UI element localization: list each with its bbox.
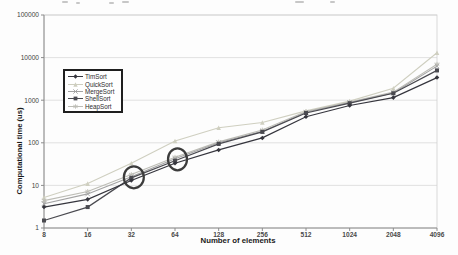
legend-item-shellsort: ShellSort — [68, 95, 119, 102]
legend-diamond — [73, 74, 77, 78]
legend: TimSortQuickSortMergeSortShellSortHeapSo… — [63, 69, 123, 113]
y-tick-label: 100 — [28, 139, 39, 146]
series-timsort-diamond — [85, 197, 90, 202]
x-tick-label: 64 — [171, 231, 179, 238]
series-shellsort-square — [42, 218, 46, 222]
x-tick-label: 16 — [84, 231, 92, 238]
legend-label: MergeSort — [85, 88, 114, 95]
series-timsort-diamond — [391, 95, 396, 100]
y-tick-label: 1 — [35, 224, 39, 231]
series-timsort-diamond — [435, 75, 440, 80]
legend-marker-square-icon — [68, 95, 83, 102]
legend-marker-x-icon — [68, 88, 83, 95]
chart-figure: 1101001000100001000008163264128256512102… — [0, 0, 458, 255]
x-tick-label: 2048 — [386, 231, 401, 238]
x-tick-label: 32 — [128, 231, 136, 238]
y-tick-label: 10000 — [21, 54, 40, 61]
series-timsort-diamond — [260, 136, 265, 141]
x-tick-label: 4096 — [430, 231, 445, 238]
legend-label: ShellSort — [85, 95, 111, 102]
series-timsort-diamond — [304, 114, 309, 119]
y-axis-title: Computational time (us) — [15, 107, 24, 194]
x-tick-label: 8 — [42, 231, 46, 238]
tick-labels: 1101001000100001000008163264128256512102… — [17, 11, 445, 238]
series-quicksort-triangle — [129, 161, 134, 166]
series-shellsort-square — [391, 91, 395, 95]
x-axis-title: Number of elements — [201, 236, 277, 245]
y-tick-label: 100000 — [17, 11, 39, 18]
gridlines — [44, 15, 437, 228]
legend-marker-asterisk-icon — [68, 103, 83, 110]
legend-label: TimSort — [85, 73, 107, 80]
legend-marker-diamond-icon — [68, 73, 83, 80]
y-tick-label: 1000 — [24, 97, 39, 104]
plot-border — [44, 15, 437, 228]
series-quicksort-triangle — [435, 50, 440, 55]
legend-marker-triangle-icon — [68, 81, 83, 88]
x-tick-label: 512 — [300, 231, 311, 238]
legend-label: QuickSort — [85, 81, 113, 88]
series-shellsort-square — [435, 68, 439, 72]
series-timsort-diamond — [216, 148, 221, 153]
legend-square — [74, 97, 78, 101]
legend-item-mergesort: MergeSort — [68, 88, 119, 95]
series-shellsort-square — [217, 142, 221, 146]
series-shellsort-square — [86, 205, 90, 209]
x-tick-label: 1024 — [342, 231, 357, 238]
sorting-benchmark-chart: 1101001000100001000008163264128256512102… — [0, 0, 458, 255]
y-tick-label: 10 — [32, 182, 40, 189]
legend-item-timsort: TimSort — [68, 73, 119, 80]
legend-label: HeapSort — [85, 103, 112, 110]
legend-item-quicksort: QuickSort — [68, 81, 119, 88]
legend-item-heapsort: HeapSort — [68, 103, 119, 110]
series-shellsort-square — [260, 130, 264, 134]
